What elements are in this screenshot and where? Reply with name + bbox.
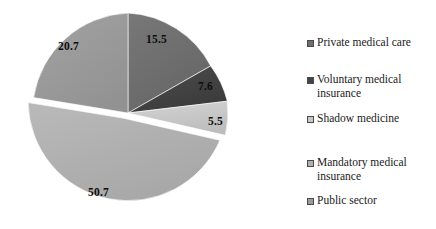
pie-value-label-public-sector: 20.7 <box>58 40 79 52</box>
pie-value-label-shadow-medicine: 5.5 <box>208 115 223 127</box>
pie-value-label-voluntary-medical-insurance: 7.6 <box>198 80 213 92</box>
legend-item-shadow-medicine: Shadow medicine <box>307 112 399 126</box>
legend-swatch-icon-voluntary-medical-insurance <box>307 77 314 84</box>
legend-label-mandatory-medical-insurance: Mandatory medical insurance <box>317 156 407 183</box>
legend-item-private-medical-care: Private medical care <box>307 36 411 50</box>
chart-plot-area: 15.5 7.6 5.5 50.7 20.7 <box>0 0 262 229</box>
legend-label-private-medical-care: Private medical care <box>317 36 411 50</box>
legend-item-mandatory-medical-insurance: Mandatory medical insurance <box>307 156 407 183</box>
legend-label-voluntary-medical-insurance: Voluntary medical insurance <box>317 73 401 100</box>
legend-swatch-icon-private-medical-care <box>307 40 314 47</box>
pie-value-label-mandatory-medical-insurance: 50.7 <box>88 186 109 198</box>
legend-label-public-sector: Public sector <box>317 194 377 208</box>
pie-slice-public-sector <box>34 13 128 113</box>
legend-item-voluntary-medical-insurance: Voluntary medical insurance <box>307 73 401 100</box>
pie-chart-figure: 15.5 7.6 5.5 50.7 20.7 Private medical c… <box>0 0 436 229</box>
legend-swatch-icon-mandatory-medical-insurance <box>307 160 314 167</box>
legend-label-shadow-medicine: Shadow medicine <box>317 112 399 126</box>
pie-value-label-private-medical-care: 15.5 <box>146 33 167 45</box>
legend-swatch-icon-public-sector <box>307 198 314 205</box>
legend-swatch-icon-shadow-medicine <box>307 116 314 123</box>
legend-item-public-sector: Public sector <box>307 194 377 208</box>
